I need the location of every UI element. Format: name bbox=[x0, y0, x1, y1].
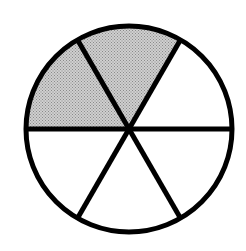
fraction-circle-diagram bbox=[0, 0, 246, 251]
